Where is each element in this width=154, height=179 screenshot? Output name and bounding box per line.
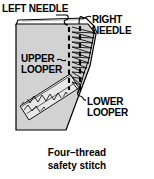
label-lower-looper: LOWER LOOPER [87,96,128,118]
figure-caption: Four–thread safety stitch [0,146,154,172]
label-left-needle: LEFT NEEDLE [2,3,68,14]
four-thread-safety-stitch-diagram: LEFT NEEDLE RIGHT NEEDLE UPPER LOOPER LO… [0,0,154,179]
label-upper-looper: UPPER LOOPER [21,53,62,75]
label-right-needle: RIGHT NEEDLE [92,14,131,36]
